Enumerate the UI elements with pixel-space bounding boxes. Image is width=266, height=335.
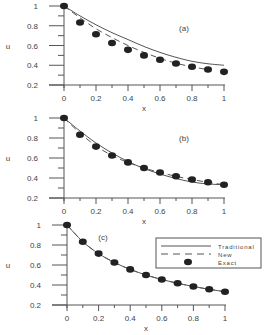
exact-marker <box>156 169 164 176</box>
exact-marker <box>108 152 116 159</box>
y-tick-label: 0.6 <box>30 261 42 270</box>
y-axis-label: u <box>6 42 10 51</box>
exact-marker <box>95 250 103 257</box>
x-tick-label: 0 <box>65 314 70 323</box>
x-tick-label: 0.2 <box>90 207 102 216</box>
x-tick-label: 1 <box>222 94 227 103</box>
exact-marker <box>76 19 84 26</box>
exact-marker <box>220 181 228 188</box>
exact-marker <box>92 143 100 150</box>
legend: TraditionalNewExact <box>156 238 261 268</box>
exact-marker <box>110 259 118 266</box>
y-tick-label: 0.2 <box>27 81 39 90</box>
panel-a: 0.20.40.60.8100.20.40.60.81xu(a) <box>6 2 228 113</box>
x-tick-label: 0.2 <box>93 314 105 323</box>
exact-marker <box>60 115 68 122</box>
x-tick-label: 0 <box>62 207 67 216</box>
x-tick-label: 1 <box>222 207 227 216</box>
x-tick-label: 0.4 <box>125 314 137 323</box>
legend-marker-icon <box>184 259 192 266</box>
panel-label: (c) <box>98 233 108 242</box>
y-tick-label: 0.8 <box>27 22 39 31</box>
x-tick-label: 0.6 <box>154 207 166 216</box>
x-tick-label: 0.6 <box>156 314 168 323</box>
exact-marker <box>142 272 150 279</box>
exact-marker <box>92 31 100 38</box>
exact-marker <box>124 47 132 54</box>
exact-marker <box>79 238 87 245</box>
exact-marker <box>188 63 196 70</box>
exact-marker <box>156 57 164 64</box>
y-tick-label: 0.4 <box>27 61 39 70</box>
x-axis-label: x <box>142 104 146 113</box>
exact-marker <box>126 266 134 273</box>
x-axis-label: x <box>144 324 148 333</box>
y-tick-label: 0.4 <box>30 281 42 290</box>
x-tick-label: 0.6 <box>154 94 166 103</box>
exact-marker <box>172 173 180 180</box>
x-axis-label: x <box>142 217 146 226</box>
y-tick-label: 1 <box>37 221 42 230</box>
exact-marker <box>221 288 229 295</box>
legend-label: New <box>218 252 232 258</box>
y-tick-label: 0.2 <box>30 301 42 310</box>
panel-label: (b) <box>179 134 189 143</box>
new-curve <box>64 118 224 185</box>
y-tick-label: 1 <box>34 2 39 11</box>
y-tick-label: 0.6 <box>27 42 39 51</box>
exact-marker <box>189 283 197 290</box>
panel-label: (a) <box>179 24 189 33</box>
x-tick-label: 0.2 <box>90 94 102 103</box>
x-tick-label: 0 <box>62 94 67 103</box>
y-tick-label: 1 <box>34 114 39 123</box>
exact-marker <box>63 222 71 229</box>
exact-marker <box>124 159 132 166</box>
figure: 0.20.40.60.8100.20.40.60.81xu(a)0.20.40.… <box>0 0 266 335</box>
exact-marker <box>60 3 68 10</box>
exact-marker <box>204 179 212 186</box>
y-axis-label: u <box>6 261 10 270</box>
legend-label: Traditional <box>218 244 255 250</box>
chart-canvas: 0.20.40.60.8100.20.40.60.81xu(a)0.20.40.… <box>0 0 266 335</box>
exact-marker <box>140 52 148 59</box>
x-tick-label: 1 <box>223 314 228 323</box>
y-tick-label: 0.2 <box>27 194 39 203</box>
exact-marker <box>220 69 228 76</box>
traditional-curve <box>64 118 224 185</box>
x-tick-label: 0.8 <box>188 314 200 323</box>
y-tick-label: 0.6 <box>27 154 39 163</box>
y-axis-label: u <box>6 154 10 163</box>
y-tick-label: 0.8 <box>27 134 39 143</box>
panel-b: 0.20.40.60.8100.20.40.60.81xu(b) <box>6 114 228 226</box>
x-tick-label: 0.8 <box>186 207 198 216</box>
exact-marker <box>158 276 166 283</box>
exact-marker <box>172 60 180 67</box>
legend-label: Exact <box>218 260 237 266</box>
exact-marker <box>140 165 148 172</box>
exact-marker <box>188 176 196 183</box>
exact-marker <box>76 131 84 138</box>
exact-marker <box>205 286 213 293</box>
x-tick-label: 0.4 <box>122 94 134 103</box>
y-tick-label: 0.4 <box>27 174 39 183</box>
x-tick-label: 0.8 <box>186 94 198 103</box>
exact-marker <box>204 66 212 73</box>
exact-marker <box>174 280 182 287</box>
y-tick-label: 0.8 <box>30 241 42 250</box>
exact-marker <box>108 40 116 47</box>
x-tick-label: 0.4 <box>122 207 134 216</box>
